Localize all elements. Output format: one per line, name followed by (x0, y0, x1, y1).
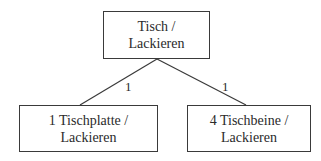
edge-root-to-tischbeine (157, 59, 246, 105)
child-node-tischplatte-line1: 1 Tischplatte / (49, 112, 128, 129)
child-node-tischbeine-line2: Lackieren (221, 129, 277, 146)
child-node-tischbeine: 4 Tischbeine / Lackieren (187, 105, 311, 152)
root-node-tisch: Tisch / Lackieren (103, 11, 210, 59)
child-node-tischplatte-line2: Lackieren (61, 129, 117, 146)
edge-label-right: 1 (222, 80, 229, 93)
root-node-line2: Lackieren (129, 35, 185, 52)
edge-root-to-tischplatte (80, 59, 157, 105)
child-node-tischplatte: 1 Tischplatte / Lackieren (19, 105, 158, 152)
child-node-tischbeine-line1: 4 Tischbeine / (210, 112, 289, 129)
edge-label-left: 1 (125, 80, 132, 93)
root-node-line1: Tisch / (137, 18, 175, 35)
